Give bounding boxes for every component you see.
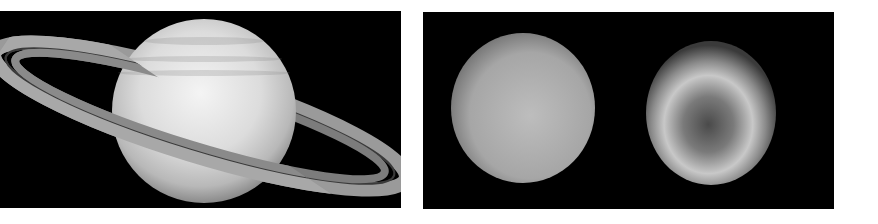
ice-giants-image-panel: Two ice giant planets xyxy=(423,12,834,209)
saturn-image-panel: Saturn xyxy=(0,11,401,208)
ice-giants-illustration xyxy=(423,12,834,209)
neptune-body xyxy=(646,41,776,185)
saturn-illustration xyxy=(0,11,401,208)
uranus-body xyxy=(451,33,595,183)
